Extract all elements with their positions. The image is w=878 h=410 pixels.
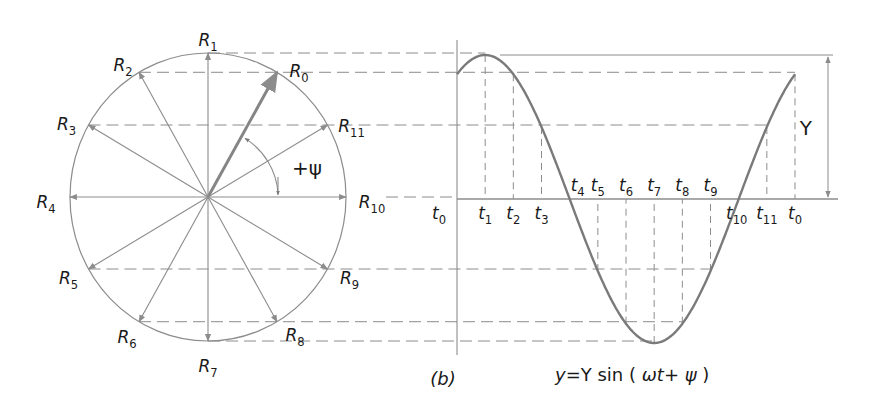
phasor-label-r7: R7 xyxy=(198,356,217,380)
phasor-vector-r2 xyxy=(139,72,208,197)
phasor-sine-diagram: R0R1R2R3R4R5R6R7R8R9R10R11+ψYt0t1t2t3t4t… xyxy=(0,0,878,410)
phase-angle-label: +ψ xyxy=(292,156,322,180)
phasor-vector-r5 xyxy=(88,197,208,269)
phasor-vector-r6 xyxy=(139,197,208,322)
time-label-t0: t0 xyxy=(432,203,446,227)
time-label-t7: t7 xyxy=(647,175,661,199)
time-label-t8: t8 xyxy=(675,175,689,199)
phasor-vector-r9 xyxy=(208,197,328,269)
time-label-t5: t5 xyxy=(591,175,605,199)
amplitude-label: Y xyxy=(799,116,813,140)
phasor-vector-r3 xyxy=(88,125,208,197)
equation-label: y=Y sin ( ωt+ ψ ) xyxy=(554,364,709,385)
phasor-label-r9: R9 xyxy=(340,268,359,292)
time-label-t11: t11 xyxy=(756,203,777,227)
phasor-label-r5: R5 xyxy=(59,268,78,292)
time-label-t0: t0 xyxy=(788,203,802,227)
phasor-label-r3: R3 xyxy=(57,114,76,138)
phasor-label-r0: R0 xyxy=(289,61,308,85)
panel-label: (b) xyxy=(430,368,455,389)
time-label-t9: t9 xyxy=(703,175,717,199)
phasor-label-r4: R4 xyxy=(36,192,55,216)
time-label-t1: t1 xyxy=(478,203,492,227)
phasor-vector-r0 xyxy=(208,72,277,197)
phasor-label-r10: R10 xyxy=(359,192,386,216)
sine-waveform-plot xyxy=(457,40,838,355)
labels: R0R1R2R3R4R5R6R7R8R9R10R11+ψYt0t1t2t3t4t… xyxy=(36,30,812,389)
phasor-circle-diagram xyxy=(70,53,346,341)
phasor-label-r11: R11 xyxy=(338,116,365,140)
time-label-t3: t3 xyxy=(534,203,548,227)
phasor-label-r2: R2 xyxy=(113,55,132,79)
phase-angle-arc xyxy=(245,138,278,193)
phasor-label-r6: R6 xyxy=(117,327,136,351)
time-label-t4: t4 xyxy=(571,175,585,199)
phasor-label-r1: R1 xyxy=(198,30,217,54)
time-label-t6: t6 xyxy=(619,175,633,199)
phasor-label-r8: R8 xyxy=(285,325,304,349)
phasor-vector-r8 xyxy=(208,197,277,322)
time-label-t2: t2 xyxy=(506,203,520,227)
